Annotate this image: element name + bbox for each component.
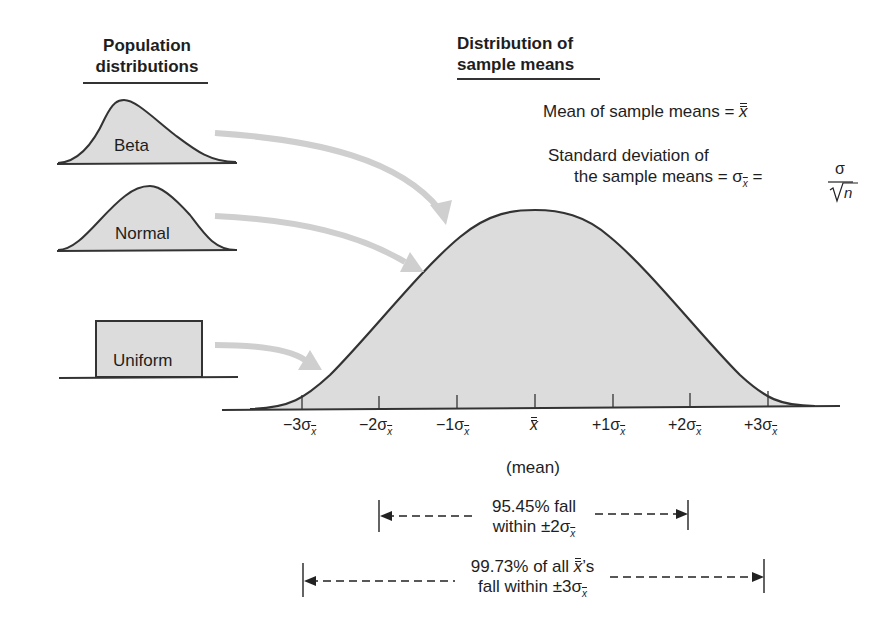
range-2sigma-text: 95.45% fall within ±2σx (474, 497, 594, 537)
range-2sigma-left-arrowhead (380, 511, 392, 521)
range-3sigma-text: 99.73% of all x’s fall within ±3σx (455, 557, 610, 597)
tick-label-minus-2: −2σx (359, 416, 392, 434)
normal-label: Normal (115, 224, 170, 244)
fraction-numerator: σ (835, 160, 845, 178)
sampling-distribution-curve (222, 210, 840, 410)
arrow-normal-to-sampling (215, 216, 405, 262)
tick-label-minus-1: −1σx (436, 416, 469, 434)
sample-means-heading: Distribution of sample means (457, 33, 574, 75)
arrow-beta-to-sampling (215, 133, 440, 210)
mean-axis-label: (mean) (506, 458, 560, 478)
sd-formula-line2: the sample means = σx = (574, 167, 762, 187)
fraction-denominator: n (844, 184, 852, 201)
tick-label-plus-2: +2σx (668, 416, 701, 434)
grand-mean-symbol: x (739, 102, 748, 122)
tick-label-minus-3: −3σx (283, 416, 316, 434)
diagram-canvas (0, 0, 889, 631)
tick-label-plus-1: +1σx (592, 416, 625, 434)
arrow-uniform-to-sampling (215, 345, 305, 360)
range-3sigma-left-arrowhead (304, 576, 316, 586)
uniform-label: Uniform (113, 351, 173, 371)
sqrt-symbol (828, 182, 858, 201)
tick-label-mean: x (530, 416, 538, 434)
tick-label-plus-3: +3σx (744, 416, 777, 434)
range-2sigma-right-arrowhead (676, 509, 688, 519)
mean-formula: Mean of sample means = x (543, 102, 748, 122)
population-heading: Population distributions (82, 35, 212, 77)
beta-label: Beta (114, 136, 149, 156)
range-3sigma-right-arrowhead (752, 572, 764, 582)
sd-formula-line1: Standard deviation of (548, 146, 709, 166)
population-heading-underline (83, 82, 208, 84)
sample-means-heading-underline (457, 78, 600, 80)
